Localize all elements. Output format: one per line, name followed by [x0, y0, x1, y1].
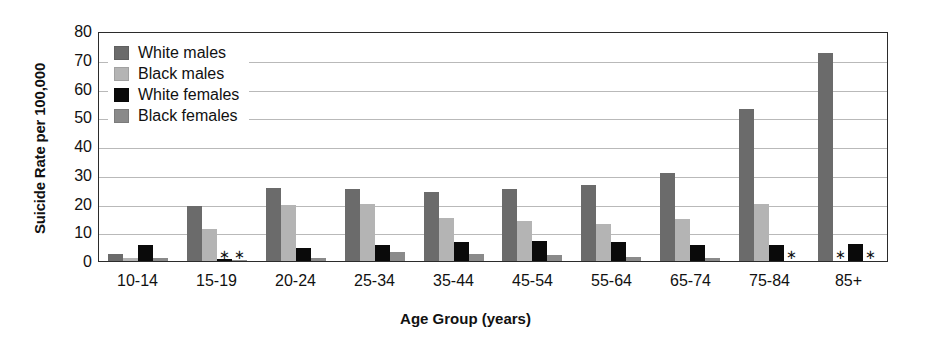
legend-swatch-icon: [114, 46, 129, 60]
bar-white-females: [769, 245, 784, 261]
bar-slot: [547, 33, 562, 261]
y-tick-label: 30: [74, 167, 92, 185]
bar-white-females: [690, 245, 705, 261]
bar-slot: [611, 33, 626, 261]
suppressed-marker: ∗: [865, 250, 876, 260]
bar-slot: ∗: [863, 33, 878, 261]
legend-item-white-females[interactable]: White females: [114, 84, 239, 105]
bar-black-males: [754, 204, 769, 262]
bar-slot: [502, 33, 517, 261]
legend-swatch-icon: [114, 67, 129, 81]
bar-slot: [754, 33, 769, 261]
bar-black-males: [675, 219, 690, 261]
bar-black-males: [439, 218, 454, 261]
suppressed-marker: ∗: [786, 250, 797, 260]
bar-white-males: [581, 185, 596, 261]
bar-group: [651, 33, 730, 261]
bar-black-males: [281, 205, 296, 261]
bar-group: ∗: [729, 33, 808, 261]
chart-legend: White malesBlack malesWhite femalesBlack…: [108, 38, 249, 131]
bar-group: [414, 33, 493, 261]
bar-slot: [675, 33, 690, 261]
x-tick-label: 85+: [809, 272, 888, 290]
legend-item-black-females[interactable]: Black females: [114, 105, 239, 126]
bar-group: [572, 33, 651, 261]
bar-slot: [424, 33, 439, 261]
bar-black-males: [123, 258, 138, 261]
legend-swatch-icon: [114, 109, 129, 123]
bar-slot: [581, 33, 596, 261]
legend-item-label: Black females: [138, 107, 238, 125]
bar-white-males: [818, 53, 833, 261]
y-tick-label: 40: [74, 138, 92, 156]
bar-slot: [739, 33, 754, 261]
bar-group: [257, 33, 336, 261]
y-axis-title: Suicide Rate per 100,000: [31, 24, 48, 274]
bar-slot: [517, 33, 532, 261]
bar-slot: [281, 33, 296, 261]
legend-item-black-males[interactable]: Black males: [114, 63, 239, 84]
bar-slot: [345, 33, 360, 261]
bar-white-females: [296, 248, 311, 261]
bar-slot: ∗: [833, 33, 848, 261]
bar-black-males: [596, 224, 611, 261]
x-tick-label: 25-34: [335, 272, 414, 290]
y-tick-label: 60: [74, 81, 92, 99]
bar-black-females: [547, 255, 562, 261]
bar-slot: ∗: [784, 33, 799, 261]
bar-group: ∗∗: [808, 33, 887, 261]
suppressed-marker: ∗: [219, 250, 230, 260]
bar-slot: [660, 33, 675, 261]
legend-swatch-icon: [114, 88, 129, 102]
bar-slot: [848, 33, 863, 261]
x-tick-label: 65-74: [651, 272, 730, 290]
bar-slot: [439, 33, 454, 261]
x-axis-tick-labels: 10-1415-1920-2425-3435-4445-5455-6465-74…: [98, 272, 888, 290]
bar-slot: [532, 33, 547, 261]
bar-black-males: [202, 229, 217, 261]
bar-white-males: [502, 189, 517, 261]
y-axis-tick-labels: 80706050403020100: [52, 32, 92, 262]
bar-slot: [454, 33, 469, 261]
bar-white-females: [375, 245, 390, 261]
bar-white-females: [454, 242, 469, 261]
bar-black-females: [469, 254, 484, 261]
x-axis-title: Age Group (years): [0, 310, 931, 327]
x-tick-label: 55-64: [572, 272, 651, 290]
bar-slot: [818, 33, 833, 261]
bar-black-males: [360, 204, 375, 262]
bar-slot: [375, 33, 390, 261]
bar-group: [335, 33, 414, 261]
bar-white-males: [345, 189, 360, 261]
bar-white-males: [266, 188, 281, 261]
bar-black-females: [153, 258, 168, 261]
bar-slot: [769, 33, 784, 261]
bar-slot: [360, 33, 375, 261]
bar-black-males: [517, 221, 532, 261]
bar-black-females: [705, 258, 720, 261]
legend-item-white-males[interactable]: White males: [114, 42, 239, 63]
suppressed-marker: ∗: [835, 250, 846, 260]
bar-slot: [596, 33, 611, 261]
bar-slot: [390, 33, 405, 261]
bar-black-females: [311, 258, 326, 261]
bar-black-females: [626, 257, 641, 261]
y-tick-label: 80: [74, 23, 92, 41]
bar-slot: [469, 33, 484, 261]
y-tick-label: 20: [74, 196, 92, 214]
bar-white-males: [660, 173, 675, 261]
bar-black-females: [390, 252, 405, 261]
bar-slot: [266, 33, 281, 261]
bar-slot: [311, 33, 326, 261]
bar-white-females: [138, 245, 153, 261]
x-tick-label: 10-14: [98, 272, 177, 290]
bar-white-males: [187, 206, 202, 261]
x-tick-label: 20-24: [256, 272, 335, 290]
legend-item-label: Black males: [138, 65, 224, 83]
y-tick-label: 10: [74, 224, 92, 242]
legend-item-label: White females: [138, 86, 239, 104]
y-tick-label: 70: [74, 52, 92, 70]
y-tick-label: 0: [83, 253, 92, 271]
bar-white-females: [611, 242, 626, 261]
bar-slot: [626, 33, 641, 261]
